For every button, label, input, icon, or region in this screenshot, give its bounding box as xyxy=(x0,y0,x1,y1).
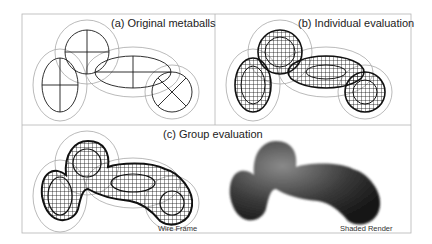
panel-a-label: (a) Original metaballs xyxy=(111,17,216,29)
figure-canvas xyxy=(0,0,432,244)
panel-b-label: (b) Individual evaluation xyxy=(298,17,414,29)
panel-c-shaded-render xyxy=(230,141,380,225)
panel-b-individual xyxy=(226,20,392,121)
panel-c-label: (c) Group evaluation xyxy=(163,128,263,140)
shaded-render-caption: Shaded Render xyxy=(340,224,393,233)
panel-a-metaballs xyxy=(33,20,199,121)
wire-frame-caption: Wire Frame xyxy=(158,224,197,233)
panel-c-wireframe xyxy=(33,131,199,232)
